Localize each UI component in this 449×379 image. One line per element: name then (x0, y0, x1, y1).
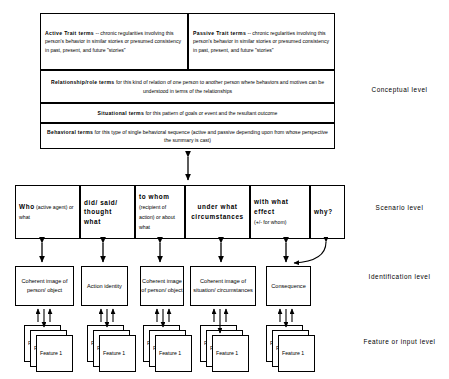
scenario-head-to-whom: to whom (139, 193, 169, 200)
scenario-cell-did-said-thought: did/ said/ thought what (80, 185, 135, 239)
scenario-cell-why: why? (310, 185, 345, 239)
feature-card-front: Feature 1 (278, 335, 315, 372)
scenario-cell-effect: with what effect (+/- for whom) (250, 185, 310, 239)
level-label-identification-text: Identification level (369, 273, 431, 280)
identification-label-person-object-2: Coherent image of person/ object (141, 277, 183, 294)
identification-box-situation: Coherent image of situation/ circumstanc… (190, 266, 256, 306)
scenario-cell-to-whom: to whom (recipient of action) or about w… (135, 185, 185, 239)
scenario-sub-effect: (+/- for whom) (254, 219, 286, 225)
feature-stack-5: F F Feature 1 (266, 325, 322, 377)
level-label-scenario-text: Scenario level (376, 204, 424, 211)
level-label-identification: Identification level (352, 272, 447, 283)
passive-trait-head: Passive Trait terms (193, 30, 246, 36)
passive-trait-box: Passive Trait terms -- chronic regularit… (188, 13, 335, 70)
feature-stack-4: F F Feature 1 (200, 325, 256, 377)
scenario-text-to-whom: to whom (recipient of action) or about w… (136, 189, 184, 234)
scenario-text-why: why? (311, 204, 336, 220)
scenario-text-effect: with what effect (+/- for whom) (251, 194, 309, 229)
relationship-role-body: for this kind of relation of one person … (114, 79, 324, 93)
passive-trait-text: Passive Trait terms -- chronic regularit… (189, 27, 334, 56)
level-label-feature: Feature or input level (352, 337, 447, 348)
identification-box-person-object-2: Coherent image of person/ object (140, 266, 184, 306)
feature-card-front: Feature 1 (212, 335, 249, 372)
identification-label-consequence: Consequence (271, 282, 306, 291)
scenario-head-circumstances: under what circumstances (191, 203, 244, 220)
identification-box-consequence: Consequence (266, 266, 311, 306)
feature-card-front-label: Feature 1 (216, 350, 238, 356)
feature-stack-1: F F Feature 1 (24, 325, 80, 377)
scenario-head-who: Who (19, 203, 35, 210)
identification-label-situation: Coherent image of situation/ circumstanc… (191, 277, 255, 294)
feature-stack-3: F F Feature 1 (143, 325, 199, 377)
feature-card-front-label: Feature 1 (282, 350, 304, 356)
active-trait-box: Active Trait terms -- chronic regulariti… (40, 13, 188, 70)
feature-card-front: Feature 1 (99, 335, 136, 372)
situational-head: Situational terms (98, 110, 144, 116)
identification-box-action-identity: Action identity (81, 266, 128, 306)
scenario-head-effect: with what effect (254, 198, 289, 215)
behavioral-box: Behavioral terms for this type of single… (40, 123, 335, 149)
active-trait-text: Active Trait terms -- chronic regulariti… (41, 27, 187, 56)
identification-box-person-object-1: Coherent image of person/ object (15, 266, 74, 306)
feature-card-front-label: Feature 1 (40, 350, 62, 356)
scenario-cell-who: Who (active agent) or what (15, 185, 80, 239)
diagram-canvas: Active Trait terms -- chronic regulariti… (0, 0, 449, 379)
feature-card-front: Feature 1 (36, 335, 73, 372)
scenario-text-did-said-thought: did/ said/ thought what (81, 195, 134, 230)
scenario-head-did-said-thought: did/ said/ thought what (84, 199, 118, 225)
feature-card-front: Feature 1 (155, 335, 192, 372)
behavioral-head: Behavioral terms (47, 129, 93, 135)
situational-body: for this pattern of goals or event and t… (144, 110, 277, 116)
relationship-role-head: Relationship/role terms (51, 79, 115, 85)
feature-card-front-label: Feature 1 (159, 350, 181, 356)
situational-box: Situational terms for this pattern of go… (40, 103, 335, 123)
level-label-conceptual: Conceptual level (352, 85, 447, 96)
identification-label-action-identity: Action identity (87, 282, 122, 291)
identification-label-person-object-1: Coherent image of person/ object (16, 277, 73, 294)
relationship-role-text: Relationship/role terms for this kind of… (41, 76, 334, 97)
active-trait-head: Active Trait terms (45, 30, 94, 36)
scenario-sub-to-whom: (recipient of action) or about what (139, 204, 175, 230)
arrow-why-to-consequence (294, 242, 326, 263)
scenario-head-why: why? (314, 208, 333, 215)
situational-text: Situational terms for this pattern of go… (41, 107, 334, 119)
level-label-scenario: Scenario level (352, 203, 447, 214)
scenario-cell-circumstances: under what circumstances (185, 185, 250, 239)
behavioral-text: Behavioral terms for this type of single… (41, 126, 334, 147)
feature-card-front-label: Feature 1 (103, 350, 125, 356)
level-label-feature-text: Feature or input level (363, 338, 435, 345)
relationship-role-box: Relationship/role terms for this kind of… (40, 70, 335, 103)
scenario-text-who: Who (active agent) or what (16, 199, 79, 225)
feature-stack-2: F F Feature 1 (87, 325, 143, 377)
behavioral-body: for this type of single behavioral seque… (93, 129, 328, 143)
scenario-text-circumstances: under what circumstances (186, 199, 249, 224)
level-label-conceptual-text: Conceptual level (371, 86, 427, 93)
